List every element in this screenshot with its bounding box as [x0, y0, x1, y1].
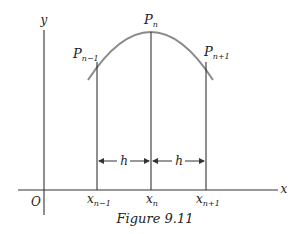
point-label-n: Pn: [143, 12, 158, 29]
figure-canvas: h h y x O Pn−1 Pn Pn+1 xn−1 xn xn+1 Figu…: [0, 0, 299, 234]
origin-label: O: [31, 195, 41, 209]
spacing-label-1: h: [120, 154, 128, 168]
figure-caption: Figure 9.11: [116, 211, 194, 226]
svg-text:xn: xn: [146, 192, 158, 208]
point-label-n-plus-1: Pn+1: [203, 44, 230, 61]
tick-label-n-minus-1: xn−1: [87, 192, 111, 208]
svg-text:Pn+1: Pn+1: [203, 44, 230, 61]
x-axis-label: x: [281, 182, 288, 196]
tick-label-n: xn: [146, 192, 158, 208]
svg-text:Pn−1: Pn−1: [72, 46, 99, 63]
svg-text:xn−1: xn−1: [87, 192, 111, 208]
tick-label-n-plus-1: xn+1: [196, 192, 220, 208]
y-axis-label: y: [40, 13, 48, 27]
svg-text:Pn: Pn: [143, 12, 158, 29]
spacing-label-2: h: [175, 154, 183, 168]
svg-text:xn+1: xn+1: [196, 192, 220, 208]
point-label-n-minus-1: Pn−1: [72, 46, 99, 63]
